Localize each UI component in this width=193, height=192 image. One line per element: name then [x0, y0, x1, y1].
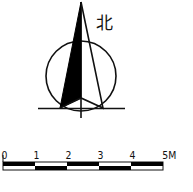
scale-bar-graphic	[0, 0, 193, 192]
scale-label-4: 4	[130, 150, 136, 161]
scale-label-0: 0	[2, 150, 8, 161]
scale-label-2: 2	[66, 150, 72, 161]
scale-label-5m: 5M	[162, 150, 176, 161]
scale-label-3: 3	[98, 150, 104, 161]
scale-label-1: 1	[34, 150, 40, 161]
